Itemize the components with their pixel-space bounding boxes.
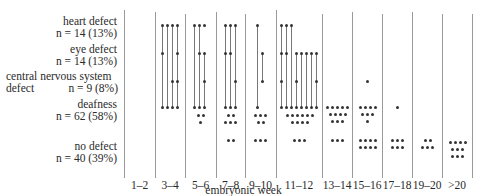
case-dot [391,146,394,149]
case-dot [171,106,174,109]
case-dot [315,80,318,83]
case-dot [285,24,288,27]
case-dot [254,139,257,142]
case-dot [280,52,283,55]
case-dot [301,114,304,117]
case-dot [166,106,169,109]
case-dot [461,148,464,151]
case-connector [225,25,226,107]
case-dot [285,52,288,55]
case-dot [264,114,267,117]
case-dot [234,106,237,109]
case-dot [295,80,298,83]
case-dot [421,146,424,149]
case-dot [234,80,237,83]
case-dot [199,121,202,124]
case-dot [464,141,467,144]
case-dot [280,106,283,109]
row-label-eye: eye defect n = 14 (13%) [56,43,117,67]
case-connector [286,25,287,107]
case-dot [203,52,206,55]
case-dot [198,24,201,27]
case-dot [295,106,298,109]
case-dot [451,148,454,151]
x-axis-label: embryonic week [0,184,487,196]
case-dot [290,24,293,27]
row-label-heart: heart defect n = 14 (13%) [56,15,117,39]
case-dot [369,139,372,142]
case-dot [171,24,174,27]
case-dot [336,106,339,109]
case-dot [203,24,206,27]
case-connector [262,53,263,81]
case-dot [311,114,314,117]
case-connector [306,53,307,107]
case-dot [456,148,459,151]
case-dot [259,139,262,142]
column-divider [124,10,125,178]
case-dot [234,121,237,124]
case-dot [336,139,339,142]
case-dot [290,106,293,109]
case-dot [176,106,179,109]
case-dot [176,24,179,27]
case-dot [224,106,227,109]
case-dot [295,52,298,55]
case-connector [172,25,173,107]
case-dot [229,106,232,109]
case-dot [232,139,235,142]
case-dot [161,24,164,27]
case-dot [198,52,201,55]
case-dot [371,113,374,116]
case-dot [396,139,399,142]
case-dot [300,106,303,109]
case-dot [310,106,313,109]
case-dot [459,141,462,144]
case-dot [366,80,369,83]
case-dot [456,155,459,158]
case-dot [326,106,329,109]
case-dot [285,106,288,109]
case-dot [229,24,232,27]
case-dot [331,120,334,123]
case-dot [331,106,334,109]
column-divider [412,12,413,178]
case-dot [161,52,164,55]
case-dot [203,106,206,109]
case-dot [310,52,313,55]
case-dot [166,24,169,27]
case-connector [291,25,292,107]
case-dot [229,52,232,55]
case-connector [301,53,302,107]
case-dot [401,146,404,149]
case-dot [431,146,434,149]
case-connector [167,25,168,107]
case-dot [306,114,309,117]
case-dot [369,106,372,109]
case-dot [227,114,230,117]
row-label-no-defect: no defect n = 40 (39%) [56,140,117,164]
case-dot [454,141,457,144]
case-connector [177,25,178,107]
case-dot [291,114,294,117]
case-dot [315,52,318,55]
column-divider [276,10,277,178]
case-dot [202,114,205,117]
case-dot [303,139,306,142]
case-dot [401,139,404,142]
case-dot [374,106,377,109]
case-dot [396,146,399,149]
case-connector [230,25,231,107]
case-dot [305,52,308,55]
column-divider [322,14,323,178]
case-dot [254,114,257,117]
case-dot [361,113,364,116]
case-dot [461,155,464,158]
case-dot [257,121,260,124]
case-dot [300,52,303,55]
case-dot [426,146,429,149]
case-connector [281,25,282,107]
case-dot [261,80,264,83]
case-dot [306,121,309,124]
case-connector [199,25,200,107]
